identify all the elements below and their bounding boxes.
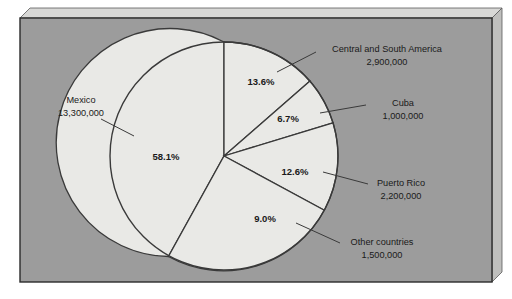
callout-central-south-america-value: 2,900,000 [367,57,408,67]
panel-right-bevel [492,8,502,282]
callout-central-south-america-name: Central and South America [332,44,443,54]
panel-top-bevel [20,8,502,18]
slice-percent-central-south-america: 13.6% [248,76,275,87]
pie-chart-figure: 13.6% 6.7% 12.6% 9.0% 58.1% Mexico 13,30… [0,0,512,299]
callout-puerto-rico-value: 2,200,000 [381,191,422,201]
slice-percent-puerto-rico: 12.6% [282,166,309,177]
callout-puerto-rico-name: Puerto Rico [377,178,425,188]
slice-percent-mexico: 58.1% [153,151,180,162]
callout-mexico-value: 13,300,000 [58,108,104,118]
callout-cuba-name: Cuba [392,98,415,108]
callout-mexico-name: Mexico [66,95,95,105]
callout-other-countries-value: 1,500,000 [362,250,403,260]
pie-chart-canvas: 13.6% 6.7% 12.6% 9.0% 58.1% Mexico 13,30… [0,0,512,299]
callout-cuba-value: 1,000,000 [383,111,424,121]
callout-other-countries-name: Other countries [351,237,414,247]
slice-percent-cuba: 6.7% [277,113,299,124]
slice-percent-other-countries: 9.0% [254,213,276,224]
